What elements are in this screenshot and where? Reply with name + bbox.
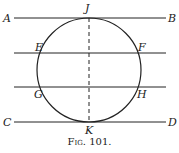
- label-k: K: [85, 125, 93, 136]
- label-a: A: [3, 13, 11, 24]
- label-g: G: [34, 89, 43, 100]
- figure-caption: Fig. 101.: [0, 136, 179, 147]
- label-j: J: [85, 3, 89, 14]
- label-d: D: [168, 117, 177, 128]
- label-f: F: [138, 42, 146, 53]
- label-e: E: [35, 42, 43, 53]
- label-b: B: [168, 13, 176, 24]
- label-c: C: [3, 117, 11, 128]
- label-h: H: [137, 89, 147, 100]
